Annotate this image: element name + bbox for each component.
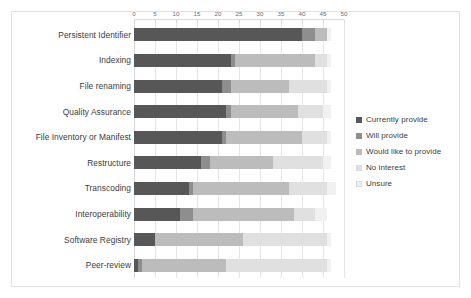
bar-segment bbox=[134, 208, 180, 221]
bar-segment bbox=[302, 131, 327, 144]
legend-swatch-icon bbox=[356, 149, 362, 155]
bar-row bbox=[134, 131, 344, 144]
legend-swatch-icon bbox=[356, 165, 362, 171]
bar-segment bbox=[134, 131, 222, 144]
category-label: Peer-review bbox=[16, 260, 131, 270]
bar-segment bbox=[193, 182, 290, 195]
bar-row bbox=[134, 259, 344, 272]
bar-segment bbox=[134, 156, 201, 169]
bar-row bbox=[134, 54, 344, 67]
legend-item[interactable]: Currently provide bbox=[356, 112, 460, 128]
category-label: Quality Assurance bbox=[16, 107, 131, 117]
category-label: File Inventory or Manifest bbox=[16, 132, 131, 142]
bar-segment bbox=[235, 54, 315, 67]
bar-segment bbox=[201, 156, 209, 169]
bar-segment bbox=[327, 182, 335, 195]
category-label: File renaming bbox=[16, 81, 131, 91]
legend-swatch-icon bbox=[356, 117, 362, 123]
bar-segment bbox=[134, 80, 222, 93]
category-label: Indexing bbox=[16, 55, 131, 65]
legend-item[interactable]: Will provide bbox=[356, 128, 460, 144]
x-tick-label: 0 bbox=[132, 10, 135, 18]
bar-row bbox=[134, 105, 344, 118]
bar-segment bbox=[323, 105, 331, 118]
category-label: Interoperability bbox=[16, 209, 131, 219]
legend-label: Would like to provide bbox=[366, 147, 441, 157]
legend-item[interactable]: Would like to provide bbox=[356, 144, 460, 160]
bar-segment bbox=[327, 28, 331, 41]
bar-segment bbox=[302, 28, 315, 41]
bar-segment bbox=[327, 233, 331, 246]
gridline bbox=[344, 22, 345, 278]
bar-segment bbox=[210, 156, 273, 169]
chart-figure: ... .. . . 05101520253035404550 Persiste… bbox=[0, 0, 471, 298]
bar-segment bbox=[327, 131, 331, 144]
x-tick-label: 25 bbox=[236, 10, 243, 18]
legend-label: No interest bbox=[366, 163, 405, 173]
legend-swatch-icon bbox=[356, 181, 362, 187]
legend-label: Unsure bbox=[366, 179, 392, 189]
x-tick-label: 20 bbox=[215, 10, 222, 18]
clipped-caption-text: ... .. . . bbox=[0, 4, 21, 9]
bar-segment bbox=[155, 233, 243, 246]
bar-segment bbox=[289, 80, 327, 93]
bar-segment bbox=[273, 156, 323, 169]
bar-segment bbox=[134, 28, 302, 41]
plot-area bbox=[134, 22, 344, 278]
bar-segment bbox=[180, 208, 193, 221]
bar-row bbox=[134, 28, 344, 41]
bar-segment bbox=[289, 182, 327, 195]
bar-segment bbox=[226, 259, 327, 272]
bar-segment bbox=[134, 54, 231, 67]
y-axis-category-labels: Persistent IdentifierIndexingFile renami… bbox=[16, 22, 131, 278]
clipped-caption-strip: ... .. . . bbox=[0, 0, 471, 9]
bar-segment bbox=[193, 208, 294, 221]
bar-segment bbox=[134, 182, 189, 195]
x-tick-label: 40 bbox=[299, 10, 306, 18]
category-label: Transcoding bbox=[16, 183, 131, 193]
bar-row bbox=[134, 208, 344, 221]
bar-segment bbox=[298, 105, 323, 118]
bar-segment bbox=[315, 54, 328, 67]
x-tick-label: 30 bbox=[257, 10, 264, 18]
bar-segment bbox=[231, 105, 298, 118]
bar-segment bbox=[134, 105, 226, 118]
bar-segment bbox=[134, 233, 155, 246]
bar-segment bbox=[327, 54, 331, 67]
bar-segment bbox=[243, 233, 327, 246]
category-label: Restructure bbox=[16, 158, 131, 168]
legend-label: Currently provide bbox=[366, 115, 428, 125]
x-tick-label: 15 bbox=[194, 10, 201, 18]
category-label: Software Registry bbox=[16, 235, 131, 245]
legend-item[interactable]: No interest bbox=[356, 160, 460, 176]
x-tick-label: 10 bbox=[173, 10, 180, 18]
x-tick-label: 45 bbox=[320, 10, 327, 18]
legend-item[interactable]: Unsure bbox=[356, 176, 460, 192]
category-label: Persistent Identifier bbox=[16, 30, 131, 40]
legend-label: Will provide bbox=[366, 131, 408, 141]
x-tick-label: 35 bbox=[278, 10, 285, 18]
bar-segment bbox=[222, 80, 230, 93]
bar-segment bbox=[142, 259, 226, 272]
bar-segment bbox=[294, 208, 315, 221]
bar-segment bbox=[315, 208, 328, 221]
bar-segment bbox=[231, 80, 290, 93]
legend-swatch-icon bbox=[356, 133, 362, 139]
bar-row bbox=[134, 156, 344, 169]
bar-segment bbox=[327, 259, 331, 272]
bar-segment bbox=[327, 80, 331, 93]
bar-row bbox=[134, 182, 344, 195]
bar-segment bbox=[226, 131, 302, 144]
bar-row bbox=[134, 233, 344, 246]
legend: Currently provideWill provideWould like … bbox=[356, 112, 460, 192]
bar-row bbox=[134, 80, 344, 93]
bar-segment bbox=[323, 156, 331, 169]
x-tick-label: 50 bbox=[341, 10, 348, 18]
bar-segment bbox=[315, 28, 328, 41]
x-tick-label: 5 bbox=[153, 10, 156, 18]
